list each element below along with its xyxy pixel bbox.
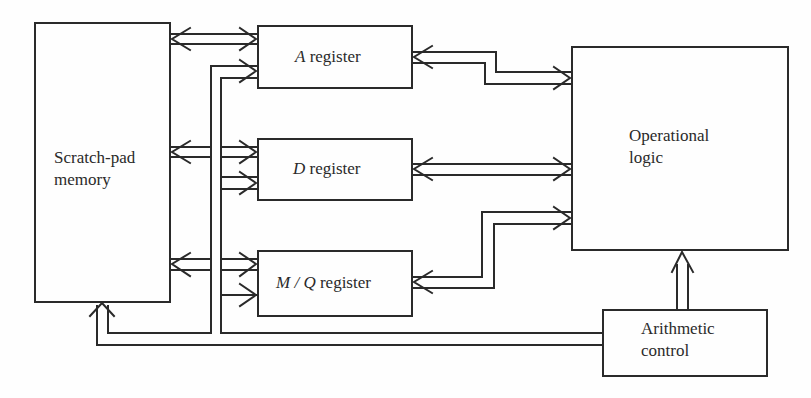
a-register-var: A: [295, 47, 305, 66]
d-register-var: D: [293, 159, 305, 178]
a-register-suffix: register: [305, 47, 360, 66]
bus-arithmetic-control-operational-logic: [672, 252, 693, 308]
mq-register-suffix: register: [316, 273, 371, 292]
arithmetic-control-line2: control: [641, 340, 715, 362]
diagram-canvas: Scratch-pad memory A register D register…: [0, 0, 811, 398]
bus-memory-a-register: [172, 28, 256, 50]
bus-memory-d-register: [172, 141, 256, 163]
arithmetic-control-line1: Arithmetic: [641, 318, 715, 340]
scratch-pad-memory-line1: Scratch-pad: [54, 147, 135, 169]
mq-register-label: M / Q register: [276, 272, 371, 294]
scratch-pad-memory-line2: memory: [54, 169, 135, 191]
bus-mq-register-operational-logic: [414, 207, 570, 293]
bus-a-register-operational-logic: [414, 46, 570, 89]
d-register-label: D register: [293, 158, 361, 180]
scratch-pad-memory-label: Scratch-pad memory: [54, 147, 135, 191]
arithmetic-control-label: Arithmetic control: [641, 318, 715, 362]
d-register-suffix: register: [305, 159, 360, 178]
control-lines-memory: [90, 303, 603, 345]
operational-logic-line1: Operational: [629, 125, 709, 147]
bus-d-register-operational-logic: [414, 158, 570, 180]
operational-logic-label: Operational logic: [629, 125, 709, 169]
operational-logic-line2: logic: [629, 147, 709, 169]
mq-register-var: M / Q: [276, 273, 316, 292]
a-register-label: A register: [295, 46, 361, 68]
bus-memory-mq-register: [172, 253, 256, 276]
control-lines-registers: [211, 60, 603, 333]
